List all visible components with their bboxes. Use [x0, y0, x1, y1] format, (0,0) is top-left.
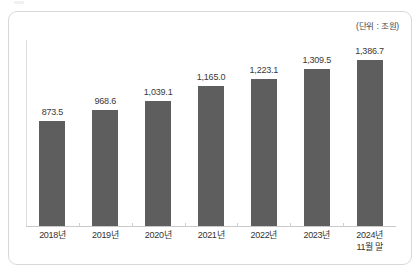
scan-artifact: [14, 1, 24, 4]
bar[interactable]: [39, 121, 65, 226]
x-axis-label-line: 2022년: [237, 230, 290, 242]
bar-series: 873.5968.61,039.11,165.01,223.11,309.51,…: [26, 40, 396, 226]
x-axis-label: 2023년: [290, 230, 343, 242]
x-axis-label: 2018년: [26, 230, 79, 242]
x-axis-label-line: 2019년: [79, 230, 132, 242]
x-axis-label-line: 2024년: [343, 230, 396, 242]
x-axis-line: [26, 226, 396, 227]
x-axis-label-line: 2021년: [185, 230, 238, 242]
x-axis-label: 2024년11월 말: [343, 230, 396, 253]
bar-value-label: 1,386.7: [355, 46, 384, 56]
x-axis-label-line: 11월 말: [343, 242, 396, 254]
bar-slot: 873.5: [26, 40, 79, 226]
bar[interactable]: [92, 110, 118, 226]
bar-slot: 1,039.1: [132, 40, 185, 226]
bar-value-label: 873.5: [42, 107, 64, 117]
bar-value-label: 968.6: [95, 96, 117, 106]
bar-value-label: 1,165.0: [197, 72, 226, 82]
plot-area: 873.5968.61,039.11,165.01,223.11,309.51,…: [26, 40, 396, 226]
bar-slot: 1,165.0: [185, 40, 238, 226]
bar[interactable]: [304, 69, 330, 226]
bar-slot: 968.6: [79, 40, 132, 226]
x-axis-label-line: 2018년: [26, 230, 79, 242]
bar-slot: 1,386.7: [343, 40, 396, 226]
bar[interactable]: [251, 79, 277, 226]
x-axis-label-line: 2020년: [132, 230, 185, 242]
x-axis-label: 2021년: [185, 230, 238, 242]
bar-slot: 1,309.5: [290, 40, 343, 226]
x-axis-label-line: 2023년: [290, 230, 343, 242]
unit-note-label: (단위 : 조원): [356, 19, 399, 31]
x-axis-label: 2020년: [132, 230, 185, 242]
bar[interactable]: [145, 101, 171, 226]
bar-value-label: 1,039.1: [144, 87, 173, 97]
bar[interactable]: [357, 60, 383, 226]
bar-value-label: 1,309.5: [302, 55, 331, 65]
bar-slot: 1,223.1: [237, 40, 290, 226]
bar-value-label: 1,223.1: [250, 65, 279, 75]
x-axis-label: 2019년: [79, 230, 132, 242]
x-axis-label: 2022년: [237, 230, 290, 242]
bar[interactable]: [198, 86, 224, 226]
x-axis-category-labels: 2018년2019년2020년2021년2022년2023년2024년11월 말: [26, 230, 396, 270]
chart-frame: (단위 : 조원) 873.5968.61,039.11,165.01,223.…: [8, 11, 412, 265]
